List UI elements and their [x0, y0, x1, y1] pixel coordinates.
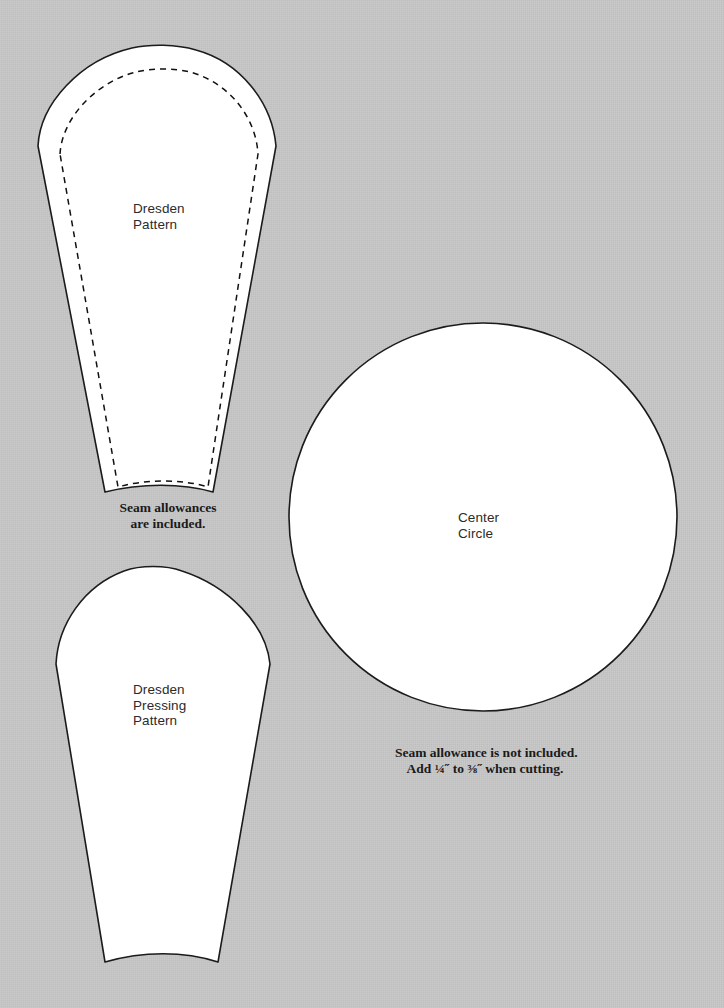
dresden-pattern-label-line2: Pattern [133, 217, 177, 232]
dresden-pressing-label-line3: Pattern [133, 713, 177, 728]
seam-not-included-line1: Seam allowance is not included. [395, 745, 578, 760]
dresden-pressing-label-line2: Pressing [133, 698, 186, 713]
seam-included-line2: are included. [131, 516, 206, 531]
seam-allowance-not-included-note: Seam allowance is not included.Add ¼˝ to… [395, 745, 575, 776]
seam-not-included-line2: Add ¼˝ to ⅜˝ when cutting. [407, 761, 564, 776]
dresden-pattern-label: DresdenPattern [133, 201, 185, 232]
pattern-sheet-page: DresdenPattern DresdenPressingPattern Ce… [0, 0, 724, 1008]
dresden-pressing-pattern-label: DresdenPressingPattern [133, 682, 186, 729]
seam-allowances-included-note: Seam allowancesare included. [108, 500, 228, 531]
center-circle-label: CenterCircle [458, 510, 499, 541]
dresden-pattern-label-line1: Dresden [133, 201, 185, 216]
center-circle-label-line1: Center [458, 510, 499, 525]
seam-included-line1: Seam allowances [119, 500, 216, 515]
dresden-pressing-label-line1: Dresden [133, 682, 185, 697]
dresden-pressing-pattern-outline[interactable] [56, 567, 270, 963]
dresden-pattern-outline[interactable] [38, 45, 276, 492]
center-circle-label-line2: Circle [458, 526, 493, 541]
